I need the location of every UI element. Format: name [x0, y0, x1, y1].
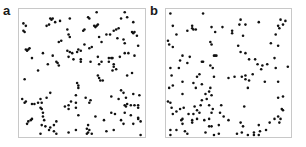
data-point [254, 58, 257, 61]
data-point [170, 74, 173, 77]
data-point [122, 38, 125, 41]
data-point [98, 77, 101, 80]
data-point [253, 131, 256, 134]
data-point [198, 111, 201, 114]
data-point [109, 33, 112, 36]
data-point [243, 105, 246, 108]
data-point [208, 118, 211, 121]
data-point [259, 130, 262, 133]
data-point [97, 23, 100, 26]
data-point [278, 121, 281, 124]
data-point [241, 75, 244, 78]
data-point [66, 28, 69, 31]
panel-a-label: a [3, 4, 10, 17]
data-point [210, 43, 213, 46]
data-point [191, 25, 194, 28]
data-point [264, 80, 267, 83]
data-point [172, 46, 175, 49]
data-point [27, 120, 30, 123]
data-point [218, 124, 221, 127]
data-point [111, 69, 114, 72]
data-point [260, 68, 263, 71]
data-point [58, 64, 61, 67]
data-point [111, 57, 114, 60]
data-point [126, 103, 129, 106]
data-point [90, 133, 93, 136]
data-point [58, 41, 61, 44]
data-point [211, 67, 214, 70]
data-point [69, 36, 72, 39]
data-point [131, 72, 134, 75]
data-point [191, 119, 194, 122]
data-point [67, 56, 70, 59]
data-point [75, 101, 78, 104]
data-point [126, 74, 129, 77]
data-point [198, 73, 201, 76]
data-point [25, 25, 28, 28]
data-point [67, 33, 70, 36]
data-point [100, 41, 103, 44]
data-point [231, 32, 234, 35]
data-point [98, 63, 101, 66]
data-point [49, 92, 52, 95]
data-point [79, 58, 82, 61]
data-point [227, 119, 230, 122]
data-point [33, 103, 36, 106]
data-point [133, 31, 136, 34]
scatter-panel-b [165, 8, 292, 138]
data-point [181, 80, 184, 83]
data-point [218, 133, 221, 136]
data-point [123, 42, 126, 45]
data-point [205, 98, 208, 101]
data-point [242, 35, 245, 38]
data-point [210, 26, 213, 29]
data-point [112, 129, 115, 132]
data-point [191, 121, 194, 124]
data-point [31, 118, 34, 121]
data-point [202, 12, 205, 15]
data-point [192, 28, 195, 31]
data-point [60, 39, 63, 42]
data-point [239, 51, 242, 54]
data-point [100, 61, 103, 64]
data-point [48, 23, 51, 26]
data-point [251, 73, 254, 76]
data-point [122, 92, 125, 95]
data-point [130, 104, 133, 107]
data-point [179, 59, 182, 62]
data-point [274, 33, 277, 36]
data-point [278, 27, 281, 30]
point-pattern-plot-a [19, 9, 145, 137]
data-point [114, 113, 117, 116]
data-point [247, 87, 250, 90]
data-point [122, 123, 125, 126]
data-point [209, 87, 212, 90]
data-point [186, 62, 189, 65]
data-point [202, 61, 205, 64]
data-point [31, 103, 34, 106]
data-point [279, 118, 282, 121]
data-point [227, 77, 230, 80]
data-point [66, 49, 69, 52]
data-point [123, 52, 126, 55]
data-point [137, 118, 140, 121]
data-point [71, 52, 74, 55]
data-point [175, 110, 178, 113]
data-point [88, 17, 91, 20]
data-point [219, 111, 222, 114]
data-point [116, 37, 119, 40]
data-point [175, 129, 178, 132]
data-point [37, 101, 40, 104]
data-point [170, 106, 173, 109]
data-point [132, 93, 135, 96]
data-point [94, 115, 97, 118]
data-point [169, 129, 172, 132]
data-point [48, 129, 51, 132]
panel-b-label: b [150, 4, 158, 17]
data-point [270, 42, 273, 45]
data-point [242, 125, 245, 128]
data-point [208, 125, 211, 128]
data-point [279, 18, 282, 21]
data-point [178, 67, 181, 70]
data-point [201, 99, 204, 102]
